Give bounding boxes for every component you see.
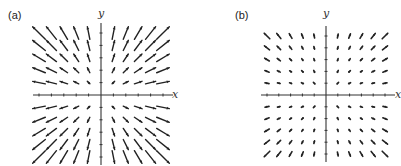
vector-arrow <box>277 71 280 73</box>
vector-arrow <box>314 70 316 73</box>
vector-arrow <box>360 71 363 73</box>
vector-arrow <box>348 117 350 119</box>
vector-arrow <box>302 129 304 132</box>
vector-arrow <box>277 129 280 131</box>
vector-arrow <box>146 54 156 62</box>
vector-arrow <box>371 33 375 38</box>
vector-arrow <box>60 140 68 150</box>
vector-arrow <box>360 141 362 144</box>
vector-arrow <box>87 40 90 50</box>
vector-arrow <box>313 59 315 61</box>
vector-arrow <box>33 128 46 136</box>
vector-field-plot-b <box>200 0 401 166</box>
vector-arrow <box>157 151 170 164</box>
vector-arrow <box>290 105 292 107</box>
vector-arrow <box>336 129 338 131</box>
vector-arrow <box>264 151 270 157</box>
vector-arrow <box>265 118 269 120</box>
vector-arrow <box>265 129 270 132</box>
vector-arrow <box>60 27 68 40</box>
vector-arrow <box>134 117 142 122</box>
vector-arrow <box>348 83 351 85</box>
vector-arrow <box>337 34 339 38</box>
vector-arrow <box>157 80 170 83</box>
vector-arrow <box>383 82 387 84</box>
vector-arrow <box>372 129 375 131</box>
vector-arrow <box>112 140 115 150</box>
vector-arrow <box>348 71 350 73</box>
vector-arrow <box>382 46 387 50</box>
vector-arrow <box>360 46 362 49</box>
vector-arrow <box>74 106 79 109</box>
vector-arrow <box>313 82 315 84</box>
vector-arrow <box>146 27 156 40</box>
vector-arrow <box>265 70 269 72</box>
vector-arrow <box>264 46 269 50</box>
vector-arrow <box>302 46 304 49</box>
vector-arrow <box>277 151 281 156</box>
vector-arrow <box>46 81 56 84</box>
vector-arrow <box>112 128 115 136</box>
vector-arrow <box>372 82 375 84</box>
vector-arrow <box>74 54 79 62</box>
vector-arrow <box>87 81 90 84</box>
vector-arrow <box>314 117 316 120</box>
vector-arrow <box>134 40 142 50</box>
vector-arrow <box>33 151 46 164</box>
vector-arrow <box>46 68 56 73</box>
vector-arrow <box>146 81 156 84</box>
vector-arrow <box>123 68 128 73</box>
vector-arrow <box>264 33 270 39</box>
vector-arrow <box>313 46 315 49</box>
vector-arrow <box>302 117 304 119</box>
vector-arrow <box>112 81 115 84</box>
x-axis-label-a: x <box>172 88 178 101</box>
vector-arrow <box>372 105 375 107</box>
vector-arrow <box>360 152 363 157</box>
vector-arrow <box>123 40 128 50</box>
vector-arrow <box>277 140 281 144</box>
vector-arrow <box>123 81 128 84</box>
vector-arrow <box>46 27 56 40</box>
vector-arrow <box>157 117 170 122</box>
vector-arrow <box>46 140 56 150</box>
vector-arrow <box>371 140 375 144</box>
vector-arrow <box>123 54 128 62</box>
vector-arrow <box>33 106 46 109</box>
vector-arrow <box>60 40 68 50</box>
vector-arrow <box>382 33 388 39</box>
vector-arrow <box>290 71 293 73</box>
vector-arrow <box>277 46 281 50</box>
vector-arrow <box>360 59 362 61</box>
vector-arrow <box>313 141 315 144</box>
vector-arrow <box>360 34 363 39</box>
vector-arrow <box>277 117 280 119</box>
vector-arrow <box>60 68 68 73</box>
vector-arrow <box>134 27 142 40</box>
vector-arrow <box>290 82 292 84</box>
vector-arrow <box>382 140 387 144</box>
vector-arrow <box>74 140 79 150</box>
vector-arrow <box>382 151 388 157</box>
vector-arrow <box>360 117 363 119</box>
vector-arrow <box>146 40 156 50</box>
vector-arrow <box>301 152 303 156</box>
vector-arrow <box>313 34 315 38</box>
vector-arrow <box>289 34 292 39</box>
vector-arrow <box>337 152 339 156</box>
vector-arrow <box>46 117 56 122</box>
vector-arrow <box>87 117 90 122</box>
vector-arrow <box>157 140 170 150</box>
vector-arrow <box>348 141 350 144</box>
vector-arrow <box>383 106 387 108</box>
vector-arrow <box>301 83 304 85</box>
vector-arrow <box>60 128 68 136</box>
vector-arrow <box>157 128 170 136</box>
vector-arrow <box>46 54 56 62</box>
vector-arrow <box>134 151 142 164</box>
x-axis-label-b: x <box>395 88 401 101</box>
vector-arrow <box>146 106 156 109</box>
vector-arrow <box>112 54 115 62</box>
vector-arrow <box>60 151 68 164</box>
vector-arrow <box>290 59 292 61</box>
